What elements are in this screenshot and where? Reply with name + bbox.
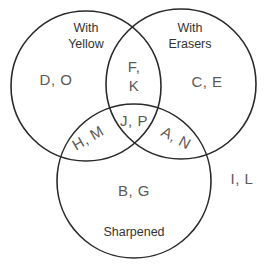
set-label-erasers-line1: With — [178, 21, 203, 35]
region-sharpened-only: B, G — [118, 182, 150, 199]
region-yellow-erasers-line2: K — [129, 77, 140, 94]
region-yellow-erasers-line1: F, — [128, 58, 141, 75]
set-label-yellow-line2: Yellow — [68, 37, 105, 51]
region-erasers-only: C, E — [191, 73, 222, 90]
set-label-erasers-line2: Erasers — [168, 37, 211, 51]
region-yellow-only: D, O — [40, 71, 73, 88]
region-outside: I, L — [231, 170, 254, 187]
set-label-yellow-line1: With — [74, 21, 99, 35]
venn-diagram: With Yellow With Erasers Sharpened D, O … — [0, 0, 266, 269]
region-all-three: J, P — [120, 112, 148, 129]
set-label-sharpened: Sharpened — [103, 225, 164, 239]
region-yellow-sharpened: H, M — [69, 122, 107, 154]
